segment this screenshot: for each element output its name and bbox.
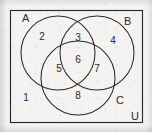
set-circle-a [21, 16, 95, 90]
region-number-a-only: 2 [39, 31, 45, 42]
venn-diagram-canvas: A B C U 1 2 3 4 5 6 7 8 [0, 0, 152, 132]
region-number-c-only: 8 [75, 90, 81, 101]
region-number-b-and-c: 7 [94, 63, 100, 74]
set-label-a: A [22, 12, 30, 24]
set-label-c: C [116, 94, 124, 106]
region-number-a-and-b: 3 [75, 32, 81, 43]
venn-diagram-figure: A B C U 1 2 3 4 5 6 7 8 [0, 0, 152, 132]
universal-set-label: U [131, 110, 139, 122]
set-circle-b [60, 16, 134, 90]
set-label-b: B [124, 15, 131, 27]
region-number-a-b-c: 6 [75, 54, 81, 65]
region-number-b-only: 4 [110, 35, 116, 46]
region-number-outside: 1 [23, 92, 29, 103]
region-number-a-and-c: 5 [56, 63, 62, 74]
set-circle-c [41, 41, 115, 115]
